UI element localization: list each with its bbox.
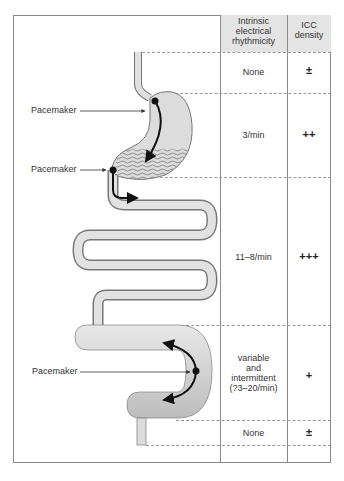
pacemaker-label-colon: Pacemaker bbox=[32, 366, 78, 376]
pacemaker-label-pylorus: Pacemaker bbox=[31, 164, 77, 174]
stomach bbox=[112, 92, 192, 182]
pacemaker-dot-pylorus bbox=[110, 167, 117, 174]
small-intestine bbox=[78, 170, 212, 328]
gi-tract-illustration bbox=[0, 0, 344, 481]
rectum bbox=[137, 418, 146, 445]
colon bbox=[75, 325, 212, 418]
pacemaker-dot-colon bbox=[193, 368, 200, 375]
esophagus bbox=[138, 52, 150, 98]
pacemaker-dot-stomach bbox=[152, 98, 159, 105]
pacemaker-label-stomach: Pacemaker bbox=[31, 105, 77, 115]
